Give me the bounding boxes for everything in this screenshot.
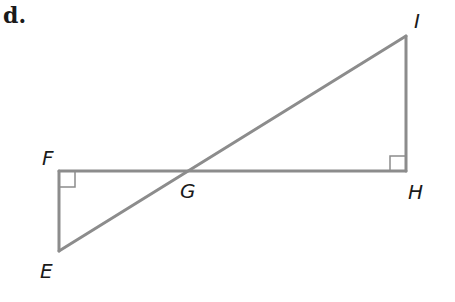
point-label-G: G (180, 179, 196, 203)
right-angle-marker-H (390, 156, 405, 170)
point-label-E: E (40, 259, 53, 283)
segment-EI (59, 36, 406, 251)
point-label-H: H (408, 180, 423, 204)
geometry-diagram: F E G H I (0, 0, 455, 302)
point-label-I: I (414, 9, 420, 33)
point-label-F: F (42, 146, 54, 170)
right-angle-marker-F (60, 172, 75, 187)
